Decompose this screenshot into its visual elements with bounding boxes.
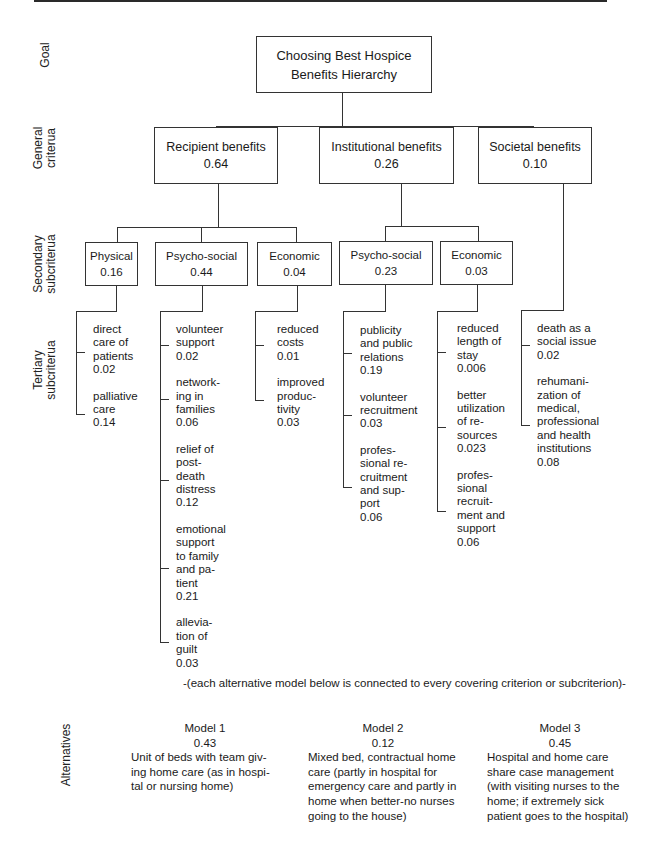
bracket-psychosocial-i-spine	[343, 311, 344, 487]
bracket-physical-top	[76, 311, 117, 312]
connector-to-psychosocial-i	[385, 226, 386, 242]
tertiary-text: rehumani-	[537, 375, 599, 388]
tertiary-group-physical: direct care of patients 0.02 palliative …	[93, 323, 138, 443]
tertiary-text: sional	[457, 482, 505, 495]
tertiary-text: reduced	[277, 323, 324, 336]
tertiary-text: ing in	[176, 390, 226, 403]
tertiary-weight: 0.06	[360, 511, 418, 524]
tertiary-text: reduced	[457, 322, 505, 335]
tertiary-weight: 0.03	[360, 417, 418, 430]
bracket-physical-down	[116, 286, 117, 311]
model-description-line: going to the house)	[308, 809, 458, 824]
model-description-line: (with visiting nurses to the	[487, 779, 633, 794]
connector-to-psychosocial-r	[201, 227, 202, 242]
level-label-goal-text: Goal	[38, 42, 52, 67]
secondary-weight: 0.44	[190, 264, 212, 280]
tertiary-item: profes- sional recruit- ment and support…	[457, 469, 505, 549]
general-label: Societal benefits	[489, 139, 581, 156]
level-label-tertiary-line2: subcriterua	[45, 340, 58, 399]
model-description-line: patient goes to the hospital)	[487, 809, 633, 824]
bracket-economic-r-top	[255, 311, 298, 312]
tertiary-weight: 0.006	[457, 362, 505, 375]
tertiary-text: post-	[176, 456, 226, 469]
tertiary-text: ment and	[457, 509, 505, 522]
secondary-node-physical: Physical 0.16	[85, 242, 138, 286]
tertiary-text: profes-	[360, 444, 418, 457]
bracket-tick	[521, 425, 530, 426]
bracket-tick	[521, 345, 530, 346]
tertiary-text: and sup-	[360, 484, 418, 497]
bracket-tick	[160, 642, 169, 643]
tertiary-text: produc-	[277, 390, 324, 403]
bracket-tick	[437, 352, 446, 353]
tertiary-text: patients	[93, 350, 138, 363]
general-weight: 0.64	[204, 156, 228, 173]
tertiary-weight: 0.06	[457, 536, 505, 549]
tertiary-text: relations	[360, 351, 418, 364]
tertiary-text: sources	[457, 429, 505, 442]
level-label-general-line2: criterua	[45, 127, 58, 170]
bracket-psychosocial-r-down	[202, 286, 203, 311]
tertiary-text: publicity	[360, 324, 418, 337]
tertiary-weight: 0.02	[93, 363, 138, 376]
tertiary-text: guilt	[176, 643, 226, 656]
tertiary-text: better	[457, 389, 505, 402]
level-label-tertiary: Tertiary subcriterua	[32, 340, 58, 399]
tertiary-weight: 0.02	[537, 349, 599, 362]
tertiary-weight: 0.03	[277, 416, 324, 429]
bracket-tick	[255, 400, 264, 401]
tertiary-text: distress	[176, 483, 226, 496]
bracket-tick	[160, 345, 169, 346]
tertiary-text: recruit-	[457, 495, 505, 508]
connector-to-economic-i	[478, 226, 479, 242]
tertiary-text: and pa-	[176, 563, 226, 576]
alternatives-note: -(each alternative model below is connec…	[183, 677, 626, 689]
goal-line-2: Benefits Hierarchy	[291, 65, 397, 84]
tertiary-item: direct care of patients 0.02	[93, 323, 138, 377]
tertiary-text: families	[176, 403, 226, 416]
model-description-line: ing home care (as in hospi-	[131, 765, 279, 780]
alternative-model-1: Model 1 0.43 Unit of beds with team giv-…	[131, 721, 279, 794]
tertiary-text: to family	[176, 550, 226, 563]
connector-goal-down	[342, 93, 343, 126]
connector-to-physical	[117, 227, 118, 242]
general-weight: 0.26	[374, 156, 398, 173]
secondary-node-economic-institutional: Economic 0.03	[440, 241, 513, 285]
model-description-line: tal or nursing home)	[131, 779, 279, 794]
tertiary-text: relief of	[176, 443, 226, 456]
tertiary-text: direct	[93, 323, 138, 336]
model-title: Model 1	[131, 721, 279, 736]
tertiary-weight: 0.14	[93, 416, 138, 429]
tertiary-item: publicity and public relations 0.19	[360, 324, 418, 378]
secondary-node-psychosocial-recipient: Psycho-social 0.44	[155, 242, 248, 286]
tertiary-text: institutions	[537, 442, 599, 455]
model-description-line: home; if extremely sick	[487, 794, 633, 809]
bracket-physical-spine	[76, 311, 77, 415]
bracket-psychosocial-r-spine	[160, 311, 161, 642]
tertiary-text: tivity	[277, 403, 324, 416]
bracket-tick	[437, 511, 446, 512]
tertiary-weight: 0.02	[176, 350, 226, 363]
general-node-institutional: Institutional benefits 0.26	[319, 127, 454, 184]
tertiary-item: profes- sional re- cruitment and sup- po…	[360, 444, 418, 524]
tertiary-text: profes-	[457, 469, 505, 482]
model-description-line: emergency care and partly in	[308, 779, 458, 794]
tertiary-item: allevia- tion of guilt 0.03	[176, 616, 226, 670]
secondary-weight: 0.04	[283, 264, 305, 280]
connector-societal-left	[521, 310, 564, 311]
tertiary-item: network- ing in families 0.06	[176, 376, 226, 430]
secondary-weight: 0.03	[465, 263, 487, 279]
bracket-tick	[343, 487, 352, 488]
secondary-weight: 0.16	[100, 264, 122, 280]
tertiary-group-societal: death as a social issue 0.02 rehumani- z…	[537, 322, 599, 482]
tertiary-text: social issue	[537, 335, 599, 348]
bracket-tick	[160, 568, 169, 569]
tertiary-item: emotional support to family and pa- tien…	[176, 523, 226, 603]
tertiary-text: death	[176, 470, 226, 483]
tertiary-group-psychosocial-institutional: publicity and public relations 0.19 volu…	[360, 324, 418, 537]
tertiary-text: tient	[176, 577, 226, 590]
secondary-label: Psycho-social	[166, 248, 237, 264]
tertiary-weight: 0.06	[176, 416, 226, 429]
tertiary-item: relief of post- death distress 0.12	[176, 443, 226, 510]
tertiary-text: support	[176, 336, 226, 349]
